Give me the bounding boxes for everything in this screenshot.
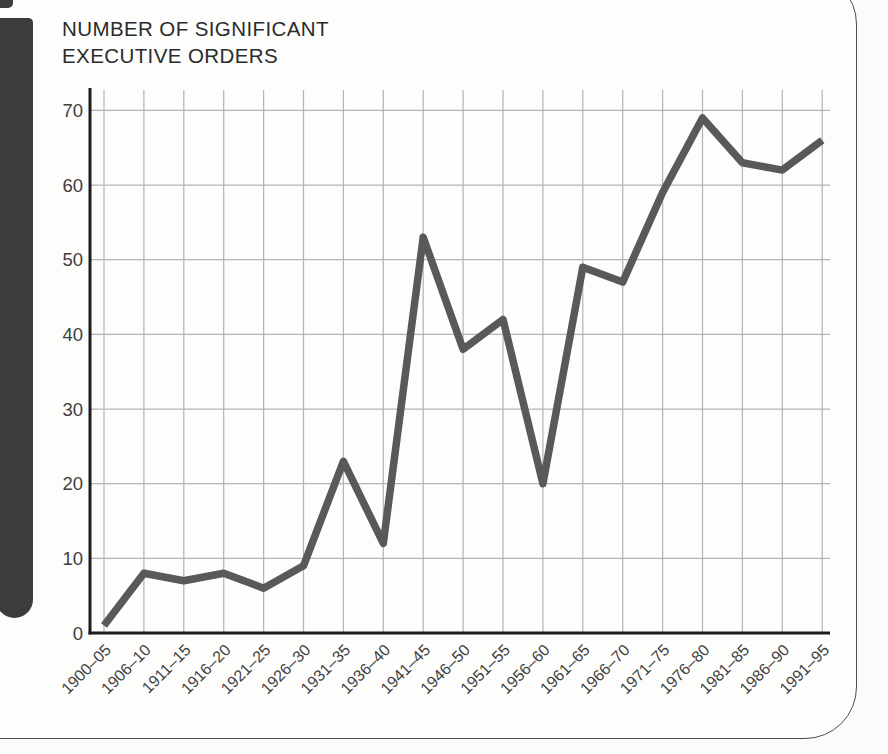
y-tick-label: 20	[62, 473, 83, 494]
y-tick-label: 10	[62, 548, 83, 569]
axes	[89, 88, 831, 635]
y-tick-label: 0	[73, 623, 83, 644]
gridlines	[90, 90, 830, 633]
y-tick-label: 70	[62, 100, 83, 121]
x-tick-labels: 1900–051906–101911–151916–201921–251926–…	[58, 641, 832, 697]
y-tick-labels: 010203040506070	[62, 100, 83, 644]
y-tick-label: 30	[62, 399, 83, 420]
y-tick-label: 50	[62, 249, 83, 270]
line-chart: 0102030405060701900–051906–101911–151916…	[0, 0, 888, 754]
y-tick-label: 40	[62, 324, 83, 345]
y-tick-label: 60	[62, 175, 83, 196]
